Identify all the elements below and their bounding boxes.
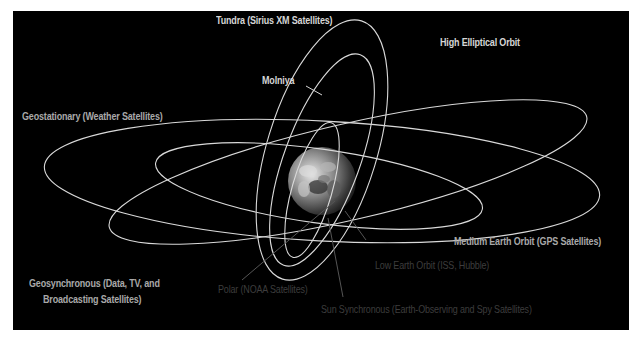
label-tundra: Tundra (Sirius XM Satellites)	[216, 13, 332, 27]
label-medium-earth-orbit: Medium Earth Orbit (GPS Satellites)	[454, 234, 601, 248]
label-geosynchronous-line1: Geosynchronous (Data, TV, and	[29, 276, 160, 290]
earth-texture	[298, 181, 310, 197]
label-high-elliptical-orbit: High Elliptical Orbit	[440, 35, 520, 49]
earth-texture	[318, 175, 330, 183]
label-sun-synchronous: Sun Synchronous (Earth-Observing and Spy…	[321, 302, 532, 316]
molniya-pointer	[306, 86, 322, 95]
earth-globe	[288, 147, 356, 215]
orbit-diagram-panel: Tundra (Sirius XM Satellites) High Ellip…	[13, 11, 629, 330]
label-low-earth-orbit: Low Earth Orbit (ISS, Hubble)	[375, 258, 489, 272]
label-polar: Polar (NOAA Satellites)	[218, 282, 308, 296]
sun-synchronous-pointer	[328, 218, 343, 297]
label-geostationary: Geostationary (Weather Satellites)	[22, 109, 163, 123]
label-molniya: Molniya	[262, 73, 294, 87]
earth-texture	[320, 162, 336, 172]
earth-texture	[299, 165, 317, 177]
label-geosynchronous-line2: Broadcasting Satellites)	[43, 292, 141, 306]
